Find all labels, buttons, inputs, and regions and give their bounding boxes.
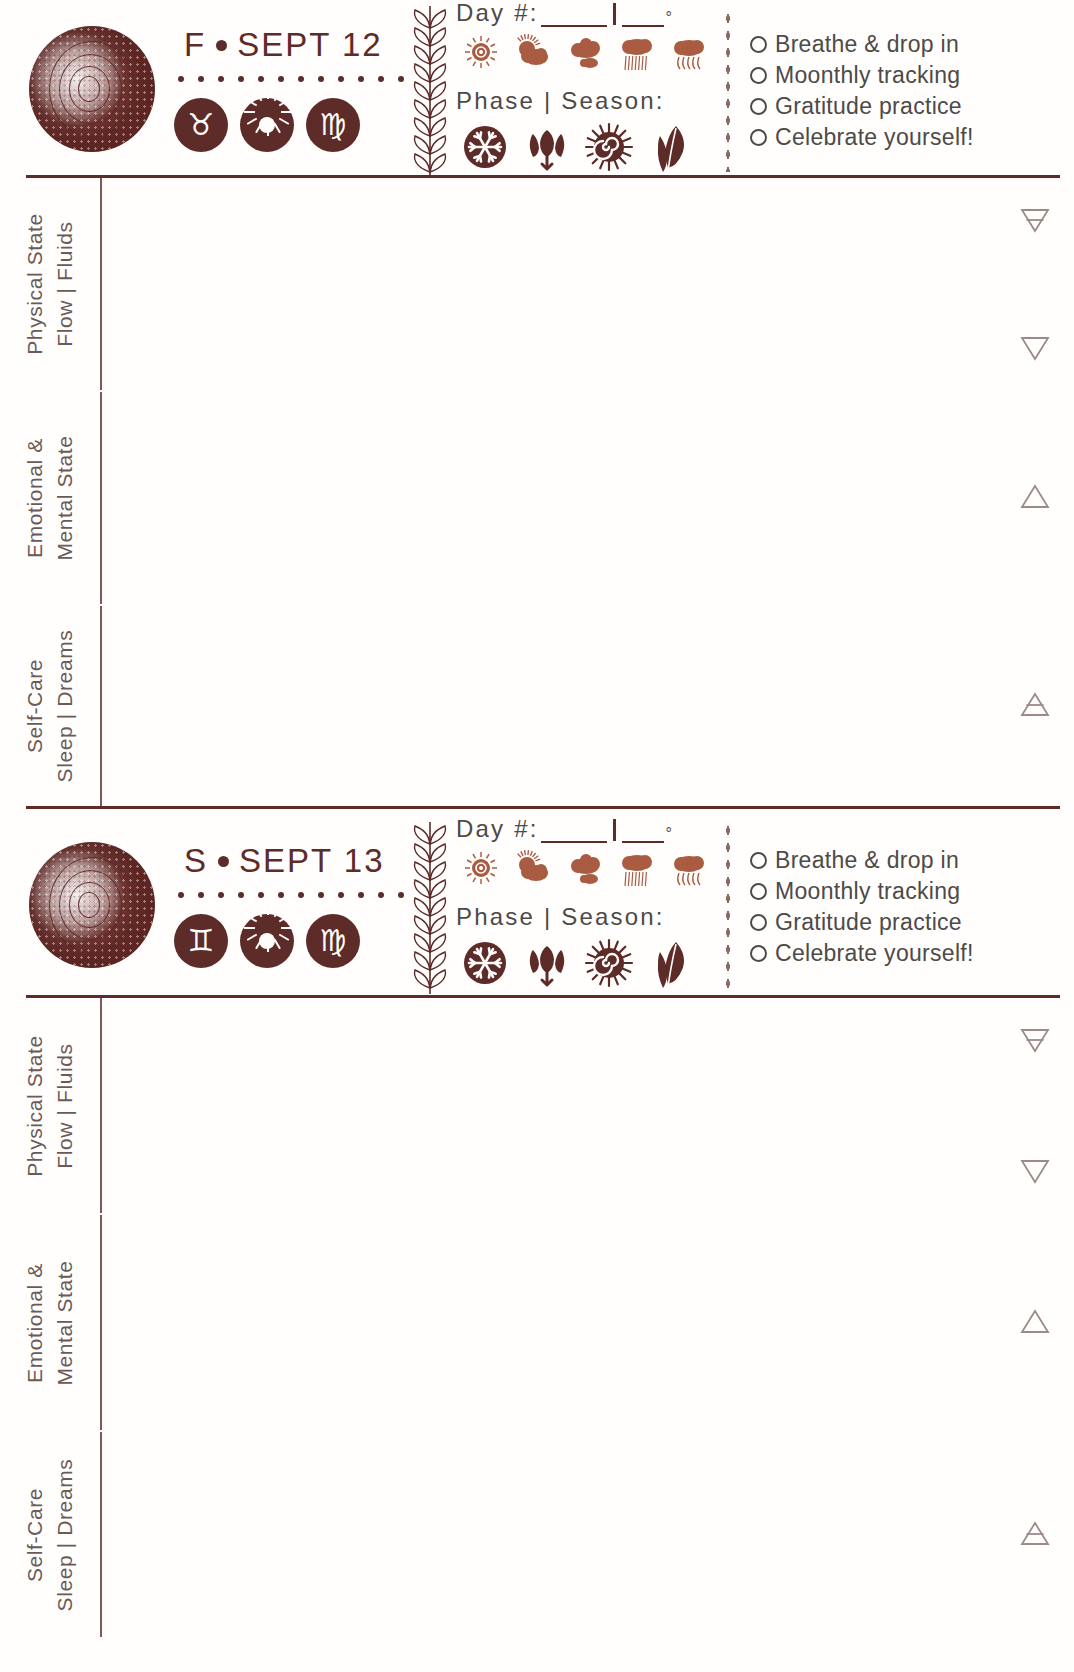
section-writing-area[interactable] xyxy=(100,1432,1074,1637)
section-label-cell: Physical StateFlow | Fluids xyxy=(0,178,100,390)
section-label-cell: Self-CareSleep | Dreams xyxy=(0,606,100,806)
checklist-item-label: Breathe & drop in xyxy=(775,845,959,876)
decoration-dot xyxy=(278,76,284,82)
checkbox-circle-icon[interactable] xyxy=(750,67,767,84)
date-text: SEPT 13 xyxy=(239,842,384,879)
section-writing-area[interactable] xyxy=(100,998,1074,1213)
cloudy-icon[interactable] xyxy=(564,32,606,80)
sun-ray xyxy=(274,123,281,134)
section-label: Self-CareSleep | Dreams xyxy=(20,1458,81,1611)
tulip-spring-icon[interactable] xyxy=(522,120,572,178)
phase-season-label: Phase | Season: xyxy=(456,903,665,931)
sun-ray xyxy=(281,927,292,929)
day-number-blank[interactable] xyxy=(541,826,607,843)
checklist-item-label: Gratitude practice xyxy=(775,91,962,122)
sun-ray xyxy=(274,907,281,918)
taurus-icon[interactable]: ♉ xyxy=(174,98,228,152)
temperature-blank[interactable] xyxy=(622,826,664,843)
day-number-divider xyxy=(613,3,616,25)
temperature-blank[interactable] xyxy=(622,10,664,27)
rain-icon[interactable] xyxy=(616,32,658,80)
air-symbol xyxy=(1018,1520,1052,1550)
sun-icon[interactable] xyxy=(240,914,294,968)
cloudy-icon[interactable] xyxy=(564,848,606,896)
snowflake-winter-icon[interactable] xyxy=(460,936,510,994)
zodiac-badge-row: ♉♍ xyxy=(170,98,404,152)
checklist-divider xyxy=(718,822,738,992)
section-label-cell: Emotional &Mental State xyxy=(0,1215,100,1430)
day-sections-0: Physical StateFlow | FluidsEmotional &Me… xyxy=(0,178,1074,806)
section-row: Self-CareSleep | Dreams xyxy=(0,606,1074,806)
checkbox-circle-icon[interactable] xyxy=(750,914,767,931)
dotted-decoration-row xyxy=(170,892,404,900)
section-label-bottom: Mental State xyxy=(50,1260,80,1385)
leaf-autumn-icon[interactable] xyxy=(646,936,696,994)
wheat-divider-icon xyxy=(404,820,456,990)
section-writing-area[interactable] xyxy=(100,178,1074,390)
checklist-item[interactable]: Gratitude practice xyxy=(750,91,1074,122)
storm-icon[interactable] xyxy=(668,32,710,80)
decoration-dot xyxy=(358,892,364,898)
day-block: FSEPT 12♉♍Day #:°Phase | Season:Breathe … xyxy=(0,0,1074,812)
moon-ring xyxy=(78,892,99,917)
water-symbol xyxy=(1018,332,1052,362)
storm-icon[interactable] xyxy=(668,848,710,896)
decoration-dot xyxy=(278,892,284,898)
checkbox-circle-icon[interactable] xyxy=(750,129,767,146)
virgo-icon[interactable]: ♍ xyxy=(306,914,360,968)
sun-icon[interactable] xyxy=(460,32,502,80)
date-heading: SSEPT 13 xyxy=(170,842,404,880)
checkbox-circle-icon[interactable] xyxy=(750,945,767,962)
decoration-dot xyxy=(358,76,364,82)
sun-ray xyxy=(267,941,269,952)
section-row: Self-CareSleep | Dreams xyxy=(0,1432,1074,1637)
section-writing-area[interactable] xyxy=(100,606,1074,806)
checklist-item[interactable]: Moonthly tracking xyxy=(750,60,1074,91)
section-writing-area[interactable] xyxy=(100,1215,1074,1430)
decoration-dot xyxy=(318,892,324,898)
date-separator-dot xyxy=(218,856,229,867)
decoration-dot xyxy=(218,892,224,898)
checklist-item[interactable]: Breathe & drop in xyxy=(750,845,1074,876)
checklist-item[interactable]: Breathe & drop in xyxy=(750,29,1074,60)
checkbox-circle-icon[interactable] xyxy=(750,36,767,53)
degree-symbol: ° xyxy=(666,825,675,843)
section-label-top: Self-Care xyxy=(20,630,50,783)
section-label-bottom: Flow | Fluids xyxy=(50,1035,80,1176)
spiral-moon-icon xyxy=(29,842,155,968)
sun-spiral-summer-icon[interactable] xyxy=(584,120,634,178)
decoration-dot xyxy=(258,76,264,82)
checklist-item[interactable]: Celebrate yourself! xyxy=(750,938,1074,969)
checklist-item[interactable]: Celebrate yourself! xyxy=(750,122,1074,153)
sun-ray xyxy=(274,939,281,950)
phase-season-row: Phase | Season: xyxy=(456,903,718,931)
section-writing-area[interactable] xyxy=(100,392,1074,604)
degree-symbol: ° xyxy=(666,9,675,27)
daily-checklist: Breathe & drop inMoonthly trackingGratit… xyxy=(738,841,1074,969)
moon-illustration-wrap xyxy=(24,26,160,152)
rain-icon[interactable] xyxy=(616,848,658,896)
day-number-blank[interactable] xyxy=(541,10,607,27)
gemini-icon[interactable]: ♊ xyxy=(174,914,228,968)
sun-ray xyxy=(255,91,262,102)
season-icon-row xyxy=(460,937,718,993)
checklist-item[interactable]: Gratitude practice xyxy=(750,907,1074,938)
section-row: Emotional &Mental State xyxy=(0,392,1074,604)
sun-spiral-summer-icon[interactable] xyxy=(584,936,634,994)
checklist-item[interactable]: Moonthly tracking xyxy=(750,876,1074,907)
checkbox-circle-icon[interactable] xyxy=(750,883,767,900)
partly-cloudy-icon[interactable] xyxy=(512,32,554,80)
section-label-top: Self-Care xyxy=(20,1458,50,1611)
virgo-icon[interactable]: ♍ xyxy=(306,98,360,152)
sun-icon[interactable] xyxy=(240,98,294,152)
tulip-spring-icon[interactable] xyxy=(522,936,572,994)
earth-symbol xyxy=(1018,1024,1052,1054)
snowflake-winter-icon[interactable] xyxy=(460,120,510,178)
checkbox-circle-icon[interactable] xyxy=(750,98,767,115)
decoration-dot xyxy=(258,892,264,898)
sun-icon[interactable] xyxy=(460,848,502,896)
checkbox-circle-icon[interactable] xyxy=(750,852,767,869)
leaf-autumn-icon[interactable] xyxy=(646,120,696,178)
partly-cloudy-icon[interactable] xyxy=(512,848,554,896)
decoration-dot xyxy=(198,76,204,82)
